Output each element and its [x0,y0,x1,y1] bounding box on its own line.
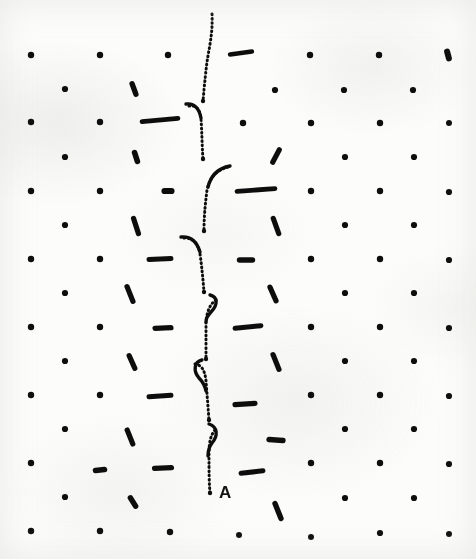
lattice-atom-dash [130,498,135,506]
lattice-atom-dot [308,460,314,466]
lattice-atom-dot [236,532,242,538]
lattice-atom-dot [410,87,416,93]
dislocation-node [207,418,211,422]
lattice-atom-dot [97,188,103,194]
dislocation-dotted-segment [203,14,212,101]
lattice-atom-dot [411,154,417,160]
lattice-atom-dash [127,430,133,444]
lattice-atom-dot [62,154,68,160]
lattice-atom-dot [308,256,314,262]
lattice-atom-dot [62,86,68,92]
dislocation-node [208,491,212,495]
lattice-atom-dot [342,358,348,364]
lattice-atom-dot [411,358,417,364]
dislocation-node [202,290,206,294]
lattice-atom-dot [446,120,452,126]
dislocation-hook [206,295,216,322]
lattice-atom-dot [62,290,68,296]
lattice-atom-dot [97,119,103,125]
lattice-atom-dot [446,531,452,537]
lattice-atom-dash [155,328,171,329]
lattice-atom-dot [342,426,348,432]
lattice-atom-dash [447,52,449,59]
lattice-atom-dot [377,324,383,330]
dislocation-label-A: A [219,484,231,501]
lattice-atom-dot [446,257,452,263]
dislocation-dotted-segment [184,238,204,292]
lattice-atom-dot [377,460,383,466]
lattice-atom-dot [307,52,313,58]
lattice-atom-dot [411,290,417,296]
lattice-atom-dot [446,461,452,467]
dislocation-node [201,157,205,161]
lattice-atom-dot [97,324,103,330]
dislocation-node [201,99,205,103]
lattice-atom-dot [377,188,383,194]
lattice-atom-dot [28,460,34,466]
lattice-atom-dot [308,120,314,126]
lattice-atom-dot [167,529,173,535]
lattice-atom-dash [269,440,283,441]
lattice-atom-dash [134,218,139,233]
lattice-atom-dot [308,188,314,194]
lattice-atom-dot [342,154,348,160]
lattice-atom-dot [62,358,68,364]
lattice-atom-dash [230,51,252,54]
lattice-atom-dot [62,426,68,432]
dislocation-node [202,229,206,233]
lattice-atom-dot [28,119,34,125]
dislocation-hook [208,424,216,456]
lattice-atom-dash [149,395,171,397]
lattice-atom-dot [97,392,103,398]
lattice-atom-dash [142,118,178,121]
lattice-atom-dot [28,256,34,262]
dislocation-hook [208,166,230,187]
lattice-atom-dot [342,290,348,296]
lattice-atom-dot [446,189,452,195]
lattice-atom-dot [165,52,171,58]
dislocation-figure: A [0,0,476,559]
lattice-atom-dash [235,403,255,404]
dislocation-node [204,357,208,361]
lattice-atom-dot [97,256,103,262]
lattice-atom-dash [129,356,135,369]
lattice-atom-dot [28,528,34,534]
lattice-atom-dash [237,189,275,192]
lattice-atom-dash [155,468,172,469]
lattice-atom-dot [377,530,383,536]
lattice-atom-dot [97,52,103,58]
lattice-atom-dot [377,256,383,262]
lattice-atom-dash [149,258,171,259]
lattice-atom-dash [235,326,261,329]
atom-layer [28,51,452,540]
lattice-atom-dash [270,287,276,301]
lattice-atom-dot [377,120,383,126]
lattice-atom-dot [240,120,246,126]
lattice-atom-dash [132,84,136,94]
dislocation-dotted-segment [204,167,228,231]
lattice-atom-dot [28,52,34,58]
lattice-atom-dash [273,218,278,233]
lattice-atom-dot [377,392,383,398]
lattice-atom-dot [28,392,34,398]
lattice-atom-dot [411,426,417,432]
lattice-atom-dot [411,495,417,501]
lattice-atom-dash [273,355,279,370]
lattice-atom-dash [127,287,133,302]
lattice-atom-dot [28,188,34,194]
lattice-canvas [0,0,476,559]
lattice-atom-dot [341,87,347,93]
lattice-atom-dash [135,153,138,162]
lattice-atom-dash [96,470,105,471]
lattice-atom-dot [446,325,452,331]
lattice-atom-dot [62,494,68,500]
lattice-atom-dash [241,471,263,473]
lattice-atom-dot [376,52,382,58]
dislocation-line-layer [181,14,230,495]
lattice-atom-dot [446,393,452,399]
lattice-atom-dot [411,222,417,228]
lattice-atom-dash [275,504,281,519]
lattice-atom-dash [273,150,280,162]
lattice-atom-dot [308,534,314,540]
lattice-atom-dot [342,495,348,501]
